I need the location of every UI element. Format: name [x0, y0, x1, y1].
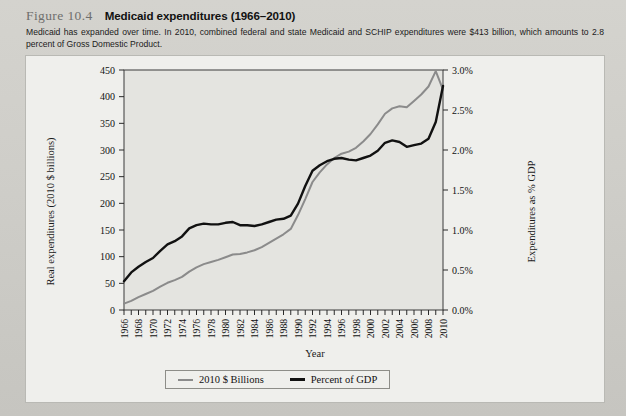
y-axis-left-tick-label: 450	[100, 65, 115, 76]
x-axis-tick-label: 1976	[191, 319, 202, 338]
x-axis-tick-label: 1982	[235, 319, 246, 338]
x-axis-tick-label: 1988	[278, 319, 289, 338]
x-axis-tick-label: 1968	[133, 319, 144, 338]
x-axis-tick-label: 2002	[380, 319, 391, 338]
x-axis-tick-label: 1984	[249, 319, 260, 338]
figure-title: Medicaid expenditures (1966–2010)	[105, 9, 296, 22]
x-axis-tick-label: 1970	[148, 319, 159, 338]
legend-label-gdp: Percent of GDP	[311, 374, 378, 385]
y-axis-left-tick-label: 400	[100, 91, 115, 102]
x-axis-tick-label: 1974	[177, 319, 188, 338]
x-axis-tick-label: 1998	[351, 319, 362, 338]
legend-item-gdp: Percent of GDP	[290, 374, 378, 385]
legend-item-dollars: 2010 $ Billions	[178, 374, 264, 385]
x-axis-tick-label: 1980	[220, 319, 231, 338]
x-axis-tick-label: 2004	[394, 319, 405, 338]
y-axis-right-tick-label: 2.0%	[452, 145, 473, 156]
figure-header: Figure 10.4 Medicaid expenditures (1966–…	[26, 8, 606, 50]
figure-page: Figure 10.4 Medicaid expenditures (1966–…	[0, 0, 626, 416]
plot-area	[124, 70, 443, 310]
y-axis-right-label: Expenditures as % GDP	[526, 127, 537, 297]
y-axis-right-tick-label: 1.0%	[452, 225, 473, 236]
y-axis-right-tick-label: 2.5%	[452, 105, 473, 116]
x-axis-tick-label: 1986	[264, 319, 275, 338]
x-axis-tick-label: 2008	[423, 319, 434, 338]
x-axis-tick-label: 1996	[336, 319, 347, 338]
legend-swatch-black-icon	[290, 378, 305, 381]
y-axis-right-tick-label: 1.5%	[452, 185, 473, 196]
x-axis-tick-label: 1966	[119, 319, 130, 338]
y-axis-right-tick-label: 3.0%	[452, 65, 473, 76]
x-axis-tick-label: 2006	[409, 319, 420, 338]
y-axis-left-tick-label: 200	[100, 198, 115, 209]
x-axis-tick-label: 2000	[365, 319, 376, 338]
figure-caption: Medicaid has expanded over time. In 2010…	[26, 27, 604, 50]
x-axis-tick-label: 1994	[322, 319, 333, 338]
legend-swatch-gray-icon	[178, 379, 193, 381]
x-axis-tick-label: 1992	[307, 319, 318, 338]
title-row: Figure 10.4 Medicaid expenditures (1966–…	[26, 8, 606, 24]
figure-number: Figure 10.4	[26, 8, 93, 24]
y-axis-left-tick-label: 250	[100, 171, 115, 182]
y-axis-left-tick-label: 50	[105, 278, 115, 289]
x-axis-tick-label: 1978	[206, 319, 217, 338]
x-axis-tick-label: 2010	[438, 319, 449, 338]
y-axis-left-label: Real expenditures (2010 $ billions)	[45, 127, 56, 297]
y-axis-left-tick-label: 100	[100, 251, 115, 262]
legend-label-dollars: 2010 $ Billions	[199, 374, 264, 385]
y-axis-left-tick-label: 300	[100, 145, 115, 156]
x-axis-label: Year	[26, 348, 604, 359]
x-axis-tick-label: 1972	[162, 319, 173, 338]
y-axis-right-tick-label: 0.5%	[452, 265, 473, 276]
chart-legend: 2010 $ Billions Percent of GDP	[165, 370, 390, 389]
chart-panel: 0501001502002503003504004500.0%0.5%1.0%1…	[26, 56, 604, 402]
y-axis-left-tick-label: 350	[100, 118, 115, 129]
y-axis-right-tick-label: 0.0%	[452, 305, 473, 316]
y-axis-left-tick-label: 150	[100, 225, 115, 236]
y-axis-left-tick-label: 0	[110, 305, 115, 316]
x-axis-tick-label: 1990	[293, 319, 304, 338]
